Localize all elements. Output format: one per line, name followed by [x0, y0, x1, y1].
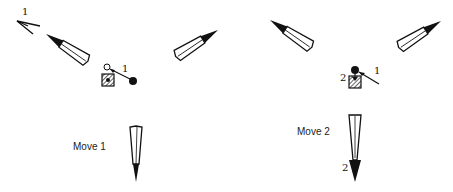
filled-circle-icon: [129, 77, 137, 85]
caption-move-1: Move 1: [73, 141, 106, 152]
panel-move-2: 2 1 2 Move 2: [267, 15, 444, 182]
open-arrow-icon: [17, 21, 40, 34]
diagram-canvas: 1 1 Move 1: [0, 0, 453, 192]
arrowhead-icon: [349, 160, 361, 182]
pencil-arrow-icon: [130, 126, 142, 182]
pencil-arrow-icon: [43, 29, 91, 66]
label-stone-2: 2: [340, 72, 346, 83]
label-stone-1: 1: [374, 65, 380, 76]
label-arrow-2: 2: [342, 162, 348, 173]
label-arrow-1: 1: [22, 6, 28, 17]
stone-move-diagram: 1: [102, 63, 137, 86]
pencil-arrow-icon: [267, 15, 315, 52]
filled-circle-icon: [351, 66, 359, 74]
pencil-arrow-icon: [172, 25, 221, 62]
panel-move-1: 1 1 Move 1: [17, 6, 221, 182]
pencil-arrow-icon: [349, 115, 361, 182]
stone-move-diagram: 2 1: [340, 65, 380, 88]
open-circle-icon: [104, 64, 110, 70]
pencil-arrow-icon: [395, 16, 444, 53]
caption-move-2: Move 2: [297, 126, 330, 137]
label-stone-1: 1: [122, 63, 128, 74]
